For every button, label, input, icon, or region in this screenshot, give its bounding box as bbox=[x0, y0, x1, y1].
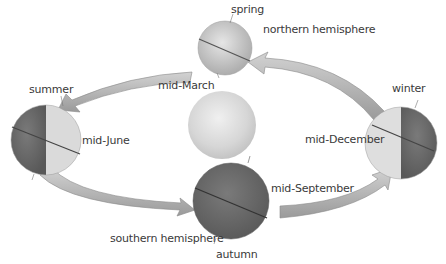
globe-spring bbox=[198, 14, 252, 78]
orbit-arrow-march-to-june bbox=[58, 72, 192, 112]
label-mid-september: mid-September bbox=[271, 183, 354, 195]
seasons-diagram: spring northern hemisphere mid-March sum… bbox=[0, 0, 446, 264]
label-northern-hemisphere: northern hemisphere bbox=[263, 24, 375, 36]
label-summer: summer bbox=[29, 84, 73, 96]
label-mid-march: mid-March bbox=[158, 80, 214, 92]
globe-autumn bbox=[193, 156, 269, 244]
label-autumn: autumn bbox=[216, 249, 257, 261]
orbit-arrow-june-to-september bbox=[40, 168, 195, 216]
label-winter: winter bbox=[392, 83, 425, 95]
label-southern-hemisphere: southern hemisphere bbox=[110, 233, 224, 245]
label-mid-december: mid-December bbox=[305, 134, 384, 146]
orbit-arrow-december-to-march bbox=[248, 52, 385, 120]
diagram-graphic bbox=[0, 0, 446, 264]
sun bbox=[188, 91, 256, 159]
label-mid-june: mid-June bbox=[82, 135, 130, 147]
label-spring: spring bbox=[231, 4, 264, 16]
